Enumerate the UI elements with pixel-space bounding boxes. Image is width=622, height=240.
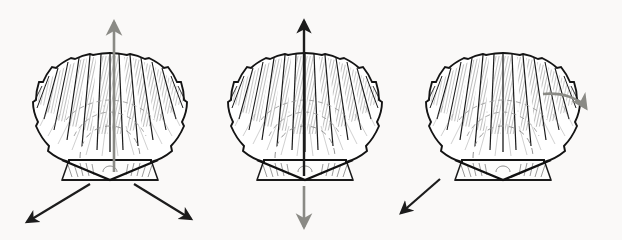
panel-1-arrows <box>27 22 191 222</box>
figure-canvas: Scallop shell locomotion force diagram T… <box>0 0 622 240</box>
arrow-down-left-black <box>401 179 440 213</box>
arrow-down-left-black <box>27 184 90 222</box>
arrow-curve-right-gray <box>543 94 586 108</box>
arrow-annotation-layer <box>0 0 622 240</box>
panel-3-arrows <box>401 94 586 213</box>
arrow-down-right-black <box>134 184 191 219</box>
